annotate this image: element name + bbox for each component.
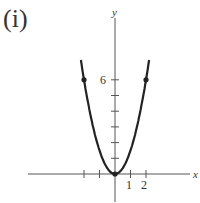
x-tick-label-1: 1 bbox=[126, 178, 132, 193]
y-tick-label-6: 6 bbox=[100, 73, 106, 88]
plot-svg bbox=[0, 0, 200, 203]
graph-figure: (i) y x 6 1 2 bbox=[0, 0, 200, 203]
x-axis-label: x bbox=[193, 168, 198, 180]
y-axis-label: y bbox=[112, 6, 117, 18]
x-tick-label-2: 2 bbox=[141, 178, 147, 193]
